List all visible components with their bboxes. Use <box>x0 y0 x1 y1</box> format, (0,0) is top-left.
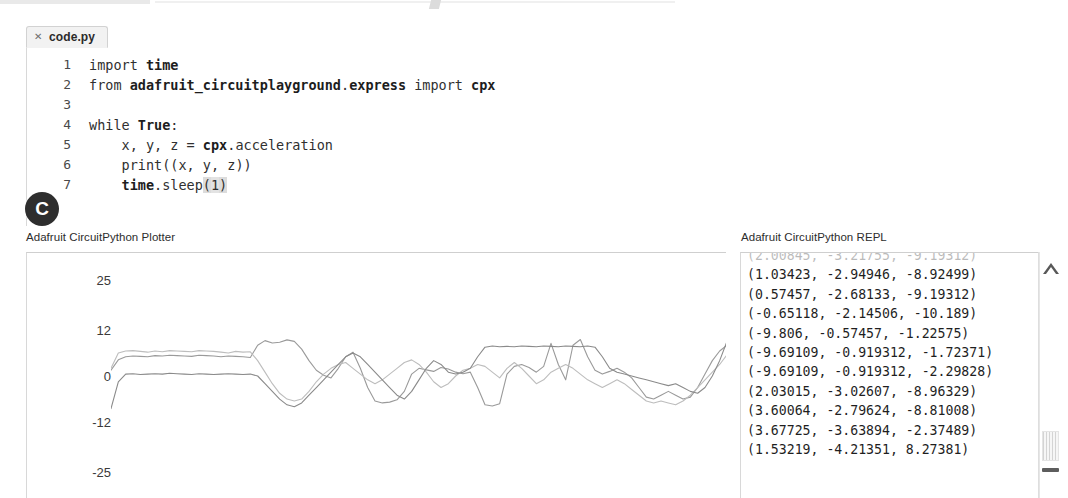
plotter-pane[interactable]: 25120-12-25 <box>26 252 726 498</box>
repl-line: (1.53219, -4.21351, 8.27381) <box>747 440 993 459</box>
code-text: import time <box>71 55 178 75</box>
code-text: from adafruit_circuitplayground.express … <box>71 75 495 95</box>
scrollbar-track[interactable] <box>1039 252 1040 498</box>
repl-line: (-0.65118, -2.14506, -10.189) <box>747 304 993 323</box>
repl-scrollbar[interactable] <box>1038 252 1064 498</box>
repl-line: (2.03015, -3.02607, -8.96329) <box>747 382 993 401</box>
plot-series-x <box>111 339 726 405</box>
scan-artifact <box>0 0 1068 12</box>
tab-code-py[interactable]: ✕ code.py <box>26 26 108 48</box>
scroll-up-arrow-icon[interactable] <box>1043 263 1059 274</box>
y-axis-tick-label: -25 <box>65 465 111 480</box>
repl-line: (-9.806, -0.57457, -1.22575) <box>747 324 993 343</box>
repl-line: (-9.69109, -0.919312, -2.29828) <box>747 362 993 381</box>
plotter-pane-label: Adafruit CircuitPython Plotter <box>26 231 175 243</box>
repl-line: (1.03423, -2.94946, -8.92499) <box>747 265 993 284</box>
code-line: 5 x, y, z = cpx.acceleration <box>27 135 1038 155</box>
line-number: 3 <box>27 95 71 115</box>
code-text <box>71 95 89 115</box>
line-number: 2 <box>27 75 71 95</box>
plot-series-y <box>111 351 726 405</box>
code-line: 4while True: <box>27 115 1038 135</box>
repl-pane[interactable]: (2.00845, -3.21755, -9.19312)(1.03423, -… <box>740 252 1038 498</box>
y-axis-tick-label: -12 <box>65 415 111 430</box>
code-editor[interactable]: 1import time2from adafruit_circuitplaygr… <box>26 48 1038 226</box>
tab-label: code.py <box>49 30 95 44</box>
line-number: 1 <box>27 55 71 75</box>
repl-line: (3.67725, -3.63894, -2.37489) <box>747 421 993 440</box>
y-axis-tick-label: 0 <box>65 369 111 384</box>
plot-series-z <box>111 341 726 408</box>
y-axis-tick-label: 25 <box>65 272 111 287</box>
code-text: print((x, y, z)) <box>71 155 252 175</box>
plot-canvas <box>111 253 726 498</box>
editor-tabbar: ✕ code.py <box>26 26 1038 49</box>
callout-badge-c: C <box>25 192 59 226</box>
repl-line: (3.60064, -2.79624, -8.81008) <box>747 401 993 420</box>
close-icon[interactable]: ✕ <box>34 32 42 42</box>
code-line: 3 <box>27 95 1038 115</box>
line-number: 5 <box>27 135 71 155</box>
code-line: 1import time <box>27 55 1038 75</box>
y-axis-tick-label: 12 <box>65 322 111 337</box>
line-number: 6 <box>27 155 71 175</box>
mu-editor-window: ✕ code.py 1import time2from adafruit_cir… <box>0 0 1068 498</box>
code-line: 7 time.sleep(1) <box>27 175 1038 195</box>
code-text: time.sleep(1) <box>71 175 227 195</box>
code-line: 2from adafruit_circuitplayground.express… <box>27 75 1038 95</box>
repl-pane-label: Adafruit CircuitPython REPL <box>741 231 887 243</box>
repl-line: (0.57457, -2.68133, -9.19312) <box>747 285 993 304</box>
line-number: 7 <box>27 175 71 195</box>
code-lines: 1import time2from adafruit_circuitplaygr… <box>27 55 1038 195</box>
code-line: 6 print((x, y, z)) <box>27 155 1038 175</box>
code-text: x, y, z = cpx.acceleration <box>71 135 333 155</box>
scrollbar-bottom-marker[interactable] <box>1042 468 1059 472</box>
pane-label-row: Adafruit CircuitPython Plotter Adafruit … <box>26 228 1038 252</box>
repl-line: (-9.69109, -0.919312, -1.72371) <box>747 343 993 362</box>
repl-output: (2.00845, -3.21755, -9.19312)(1.03423, -… <box>747 252 993 459</box>
scrollbar-thumb[interactable] <box>1042 431 1059 461</box>
plot-y-axis: 25120-12-25 <box>37 253 111 498</box>
line-number: 4 <box>27 115 71 135</box>
repl-line: (2.00845, -3.21755, -9.19312) <box>747 252 993 265</box>
code-text: while True: <box>71 115 178 135</box>
